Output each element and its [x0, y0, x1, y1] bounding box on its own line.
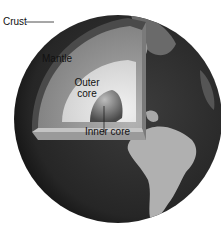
globe-illustration: [0, 0, 221, 226]
inner-core-label: Inner core: [85, 126, 130, 137]
earth-layers-diagram: Crust Mantle Outer core Inner core: [0, 0, 221, 226]
outer-core-label-line2: core: [74, 88, 100, 99]
cut-face-side: [142, 22, 146, 140]
mantle-label: Mantle: [42, 53, 72, 64]
outer-core-label-line1: Outer: [74, 77, 100, 88]
crust-label: Crust: [3, 16, 27, 27]
